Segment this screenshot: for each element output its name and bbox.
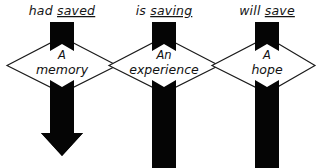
tense-timeline-diagram: A memory had saved An experience is savi… (0, 0, 322, 168)
future-tense-label-prefix: will (239, 3, 265, 18)
present-tense-label-prefix: is (136, 3, 151, 18)
diagram-canvas: A memory had saved An experience is savi… (0, 0, 322, 168)
present-tense-label: is saving (136, 3, 193, 18)
past-node-line-1: A (57, 48, 66, 62)
future-tense-label: will save (239, 3, 295, 18)
past-node-line-2: memory (36, 62, 89, 77)
present-node-line-2: experience (129, 62, 199, 77)
future-node-line-1: A (262, 48, 271, 62)
past-tense-label: had saved (29, 3, 96, 18)
bar-bottom-segments (41, 80, 279, 168)
past-bar-lower (41, 80, 83, 156)
future-tense-label-underlined: save (265, 3, 295, 18)
future-bar-lower (255, 80, 279, 168)
present-node-line-1: An (155, 48, 171, 62)
past-tense-label-prefix: had (29, 3, 57, 18)
present-bar-lower (152, 80, 176, 168)
future-node-line-2: hope (251, 62, 283, 77)
past-tense-label-underlined: saved (57, 3, 95, 18)
present-tense-label-underlined: saving (150, 3, 192, 18)
